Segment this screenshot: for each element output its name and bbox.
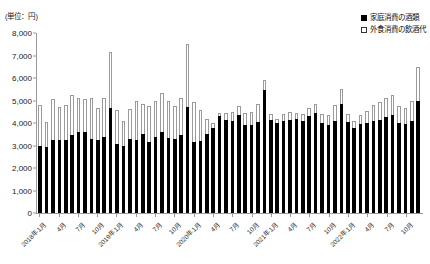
bar-segment-household <box>83 132 87 213</box>
bar-stack <box>186 44 190 213</box>
bar-segment-dining-out <box>365 111 369 123</box>
legend-item-household: 家庭消費の酒類 <box>361 12 426 24</box>
x-axis-tick-label: 7月 <box>304 219 319 234</box>
bar-segment-household <box>352 128 356 214</box>
bar-stack <box>96 108 100 213</box>
bar-segment-dining-out <box>231 112 235 121</box>
bar-series-group <box>36 33 422 213</box>
bar-segment-household <box>90 139 94 213</box>
bar-stack <box>192 102 196 213</box>
x-axis-tick-mark <box>136 214 137 217</box>
bar-stack <box>340 89 344 213</box>
bar-stack <box>90 98 94 213</box>
bar-segment-household <box>135 140 139 213</box>
bar-segment-household <box>250 125 254 213</box>
bar-stack <box>359 115 363 213</box>
bar-segment-household <box>122 146 126 214</box>
bar-stack <box>307 108 311 213</box>
bar-segment-dining-out <box>128 109 132 139</box>
bar-segment-dining-out <box>307 108 311 116</box>
bar-segment-dining-out <box>250 112 254 126</box>
x-axis-tick-label: 2018年1月 <box>19 219 49 249</box>
x-axis-tick-mark <box>213 214 214 217</box>
bar-segment-dining-out <box>90 98 94 139</box>
bar-segment-household <box>263 90 267 213</box>
bar-stack <box>83 99 87 213</box>
bar-segment-dining-out <box>320 114 324 123</box>
bar-stack <box>416 67 420 213</box>
bar-segment-household <box>333 121 337 213</box>
bar-segment-household <box>45 147 49 213</box>
bar-segment-dining-out <box>167 101 171 138</box>
bar-segment-household <box>154 137 158 214</box>
bar-stack <box>288 112 292 213</box>
bar-stack <box>211 123 215 213</box>
bar-segment-household <box>327 125 331 213</box>
x-axis-tick-mark <box>290 214 291 217</box>
x-axis-tick-mark <box>232 214 233 217</box>
bar-segment-household <box>167 138 171 213</box>
bar-stack <box>135 101 139 214</box>
bar-stack <box>263 80 267 213</box>
y-axis-tick-label: 2,000 <box>12 164 32 173</box>
x-axis-tick-label: 7月 <box>72 219 87 234</box>
bar-segment-household <box>243 125 247 213</box>
bar-segment-dining-out <box>352 121 356 128</box>
bar-segment-dining-out <box>154 101 158 137</box>
bar-stack <box>384 98 388 213</box>
y-axis-tick-label: 0 <box>28 209 32 218</box>
bar-segment-household <box>314 113 318 213</box>
bar-segment-household <box>70 135 74 213</box>
bar-stack <box>205 119 209 214</box>
bar-segment-dining-out <box>77 98 81 132</box>
bar-stack <box>58 107 62 213</box>
bar-segment-dining-out <box>243 113 247 125</box>
bar-segment-dining-out <box>179 98 183 135</box>
bar-segment-household <box>416 101 420 214</box>
bar-stack <box>38 105 42 213</box>
bar-segment-dining-out <box>237 106 241 115</box>
bar-segment-household <box>224 120 228 213</box>
x-axis-tick-mark <box>116 214 117 217</box>
bar-segment-household <box>320 123 324 213</box>
bar-stack <box>314 104 318 213</box>
x-axis-tick-mark <box>271 214 272 217</box>
bar-segment-household <box>301 121 305 213</box>
bar-stack <box>301 114 305 213</box>
bar-segment-household <box>231 121 235 213</box>
bar-segment-household <box>160 132 164 213</box>
bar-segment-dining-out <box>83 99 87 132</box>
x-axis-tick-label: 4月 <box>53 219 68 234</box>
bar-segment-household <box>115 144 119 213</box>
bar-segment-household <box>199 141 203 213</box>
x-axis-tick-label: 4月 <box>130 219 145 234</box>
bar-segment-dining-out <box>397 106 401 123</box>
bar-stack <box>128 109 132 213</box>
bar-segment-dining-out <box>346 114 350 122</box>
bar-segment-household <box>295 119 299 214</box>
bar-segment-household <box>211 128 215 214</box>
legend-label-household: 家庭消費の酒類 <box>370 12 419 24</box>
bar-segment-dining-out <box>199 110 203 142</box>
bar-segment-dining-out <box>256 104 260 122</box>
bar-stack <box>365 111 369 213</box>
bar-stack <box>141 104 145 213</box>
y-axis-tick-label: 4,000 <box>12 119 32 128</box>
bar-stack <box>372 105 376 213</box>
y-axis-unit-label: (単位：円) <box>5 10 38 21</box>
bar-segment-dining-out <box>333 105 337 121</box>
bar-segment-dining-out <box>282 114 286 121</box>
bar-stack <box>404 108 408 213</box>
bar-segment-household <box>404 124 408 213</box>
bar-group[interactable] <box>415 33 421 213</box>
bar-segment-household <box>346 122 350 213</box>
bar-segment-dining-out <box>340 89 344 104</box>
bar-segment-household <box>205 134 209 213</box>
bar-segment-household <box>128 139 132 213</box>
bar-segment-dining-out <box>301 114 305 121</box>
bar-segment-household <box>192 142 196 213</box>
bar-stack <box>199 110 203 214</box>
bar-segment-dining-out <box>122 121 126 146</box>
bar-segment-dining-out <box>109 52 113 108</box>
bar-segment-dining-out <box>263 80 267 90</box>
